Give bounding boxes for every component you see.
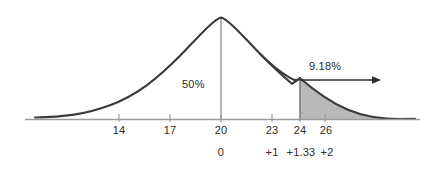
z-tick-label-plus-1: +1 bbox=[266, 146, 279, 158]
x-tick-label-17: 17 bbox=[164, 124, 177, 136]
z-tick-label-plus-1-33: +1.33 bbox=[287, 146, 316, 158]
x-tick-label-23: 23 bbox=[266, 124, 279, 136]
x-tick-label-20: 20 bbox=[215, 124, 228, 136]
chart-canvas bbox=[0, 0, 444, 169]
x-tick-label-26: 26 bbox=[320, 124, 333, 136]
tail-percentage-label: 9.18% bbox=[309, 60, 341, 72]
x-tick-label-24: 24 bbox=[294, 124, 307, 136]
normal-curve-right-shoulder bbox=[260, 54, 300, 80]
normal-distribution-chart: 9.18% 50% 14 17 20 23 24 26 0 +1 +1.33 +… bbox=[0, 0, 444, 169]
axis-ticks bbox=[119, 114, 325, 122]
z-tick-label-plus-2: +2 bbox=[321, 146, 334, 158]
tail-arrow-icon bbox=[300, 76, 381, 84]
z-tick-label-0: 0 bbox=[218, 146, 224, 158]
normal-curve bbox=[35, 18, 415, 120]
left-half-percentage-label: 50% bbox=[182, 78, 205, 90]
x-tick-label-14: 14 bbox=[113, 124, 126, 136]
